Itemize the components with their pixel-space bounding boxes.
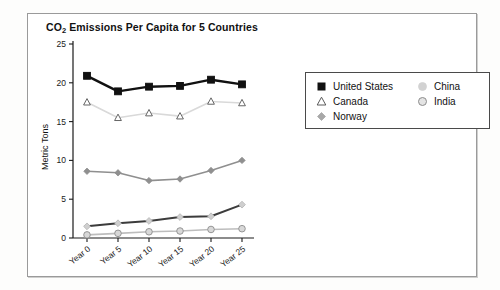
x-tick-label: Year 5 bbox=[98, 244, 123, 267]
legend-marker-icon bbox=[315, 110, 328, 123]
data-point-marker bbox=[177, 176, 183, 182]
legend-triangle-icon bbox=[317, 97, 326, 105]
legend-column-right: ChinaIndia bbox=[416, 79, 460, 109]
data-point-marker bbox=[239, 225, 246, 232]
y-tick-label: 15 bbox=[57, 117, 67, 127]
x-tick-label: Year 20 bbox=[187, 244, 216, 270]
data-point-marker bbox=[208, 76, 215, 83]
y-tick-label: 5 bbox=[61, 194, 66, 204]
x-tick-label: Year 15 bbox=[156, 244, 185, 270]
y-axis-title: Metric Tons bbox=[40, 124, 50, 170]
series-norway bbox=[84, 157, 245, 184]
legend-marker-icon bbox=[416, 80, 429, 93]
data-point-marker bbox=[115, 88, 122, 95]
legend-marker-icon bbox=[315, 80, 328, 93]
data-point-marker bbox=[84, 232, 91, 239]
legend-marker-icon bbox=[416, 95, 429, 108]
square-filled-icon bbox=[315, 80, 328, 93]
data-point-marker bbox=[84, 99, 91, 105]
y-axis-ticks: 0510152025 bbox=[57, 39, 73, 243]
circle-open-icon bbox=[416, 95, 429, 108]
legend-diamond-icon bbox=[318, 113, 326, 121]
legend-marker-icon bbox=[315, 95, 328, 108]
data-point-marker bbox=[177, 214, 184, 221]
series-canada bbox=[84, 98, 246, 121]
legend-item-norway[interactable]: Norway bbox=[315, 109, 393, 124]
legend-square-icon bbox=[318, 83, 326, 91]
data-point-marker bbox=[146, 218, 153, 225]
series-line bbox=[87, 205, 242, 227]
legend-item-label: Norway bbox=[333, 111, 367, 122]
data-point-marker bbox=[84, 223, 91, 230]
x-tick-label: Year 25 bbox=[218, 244, 247, 270]
data-point-marker bbox=[177, 83, 184, 90]
y-tick-label: 0 bbox=[61, 233, 66, 243]
x-axis-ticks: Year 0Year 5Year 10Year 15Year 20Year 25 bbox=[67, 238, 247, 269]
legend-item-china[interactable]: China bbox=[416, 79, 460, 94]
data-point-marker bbox=[239, 201, 246, 208]
data-point-marker bbox=[146, 228, 153, 235]
data-point-marker bbox=[239, 81, 246, 88]
legend-item-india[interactable]: India bbox=[416, 94, 460, 109]
y-tick-label: 20 bbox=[57, 78, 67, 88]
legend-item-label: Canada bbox=[333, 96, 368, 107]
chart-legend: United StatesCanadaNorway ChinaIndia bbox=[305, 72, 490, 129]
series-line bbox=[87, 76, 242, 92]
circle-light-icon bbox=[416, 80, 429, 93]
y-tick-label: 25 bbox=[57, 39, 67, 49]
legend-column-left: United StatesCanadaNorway bbox=[315, 79, 393, 124]
legend-item-label: United States bbox=[333, 81, 393, 92]
series-line bbox=[87, 229, 242, 235]
data-point-marker bbox=[146, 177, 152, 183]
data-point-marker bbox=[115, 220, 122, 227]
legend-item-label: China bbox=[434, 81, 460, 92]
series-china bbox=[84, 201, 246, 230]
figure-root: CO2 Emissions Per Capita for 5 Countries… bbox=[0, 0, 500, 290]
data-point-marker bbox=[239, 157, 245, 163]
legend-circle-light-icon bbox=[419, 83, 427, 91]
data-point-marker bbox=[146, 83, 153, 90]
legend-item-canada[interactable]: Canada bbox=[315, 94, 393, 109]
plot-area: 0510152025Metric TonsYear 0Year 5Year 10… bbox=[28, 14, 478, 278]
legend-item-label: India bbox=[434, 96, 456, 107]
legend-item-united-states[interactable]: United States bbox=[315, 79, 393, 94]
legend-circle-icon bbox=[419, 98, 427, 106]
data-point-marker bbox=[208, 226, 215, 233]
y-tick-label: 10 bbox=[57, 155, 67, 165]
data-point-marker bbox=[84, 168, 90, 174]
series-united-states bbox=[84, 72, 246, 94]
data-point-marker bbox=[84, 72, 91, 79]
chart-panel: CO2 Emissions Per Capita for 5 Countries… bbox=[27, 13, 477, 277]
data-point-marker bbox=[177, 228, 184, 235]
x-tick-label: Year 10 bbox=[125, 244, 154, 270]
data-point-marker bbox=[208, 213, 215, 220]
data-point-marker bbox=[115, 170, 121, 176]
series-line bbox=[87, 101, 242, 117]
axes bbox=[73, 41, 254, 238]
triangle-open-icon bbox=[315, 95, 328, 108]
series-india bbox=[84, 225, 246, 238]
x-tick-label: Year 0 bbox=[67, 244, 92, 267]
data-point-marker bbox=[115, 230, 122, 237]
data-point-marker bbox=[208, 167, 214, 173]
series-line bbox=[87, 160, 242, 180]
diamond-icon bbox=[315, 110, 328, 123]
